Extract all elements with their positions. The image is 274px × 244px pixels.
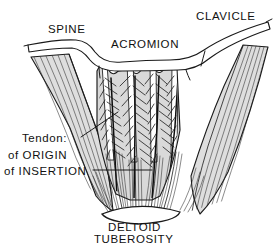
deltoid-anatomy-figure: SPINE ACROMION CLAVICLE Tendon: of ORIGI…: [0, 0, 274, 244]
label-tuberosity: TUBEROSITY: [94, 233, 173, 244]
label-tendon-of-origin: of ORIGIN: [8, 149, 67, 161]
label-tendon-heading: Tendon:: [22, 132, 67, 144]
label-clavicle: CLAVICLE: [196, 10, 256, 22]
label-deltoid: DELTOID: [108, 221, 161, 233]
label-spine: SPINE: [48, 23, 86, 35]
label-acromion: ACROMION: [111, 38, 179, 50]
label-tendon-of-insertion: of INSERTION: [4, 165, 86, 177]
figure-canvas: SPINE ACROMION CLAVICLE Tendon: of ORIGI…: [0, 0, 274, 244]
